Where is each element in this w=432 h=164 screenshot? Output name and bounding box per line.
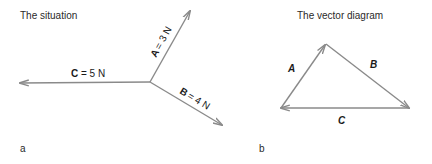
triangle-label-b: B bbox=[370, 59, 377, 70]
svg-text:= 3 N: = 3 N bbox=[152, 25, 173, 51]
svg-text:= 5 N: = 5 N bbox=[81, 68, 105, 79]
svg-text:= 4 N: = 4 N bbox=[186, 90, 212, 112]
vector-a-label: A = 3 N bbox=[148, 25, 174, 59]
force-diagrams: A = 3 N C = 5 N B = 4 N A B C bbox=[0, 0, 432, 164]
vector-triangle: A B C bbox=[281, 44, 409, 126]
triangle-vector-b bbox=[326, 44, 409, 108]
triangle-label-c: C bbox=[338, 115, 346, 126]
vector-c-arrow bbox=[20, 82, 150, 83]
svg-text:C: C bbox=[71, 68, 78, 79]
triangle-label-a: A bbox=[287, 63, 295, 74]
situation-diagram: A = 3 N C = 5 N B = 4 N bbox=[20, 11, 222, 125]
vector-b-label: B = 4 N bbox=[178, 85, 212, 112]
vector-c-label: C = 5 N bbox=[71, 68, 105, 79]
triangle-vector-a bbox=[281, 45, 325, 108]
